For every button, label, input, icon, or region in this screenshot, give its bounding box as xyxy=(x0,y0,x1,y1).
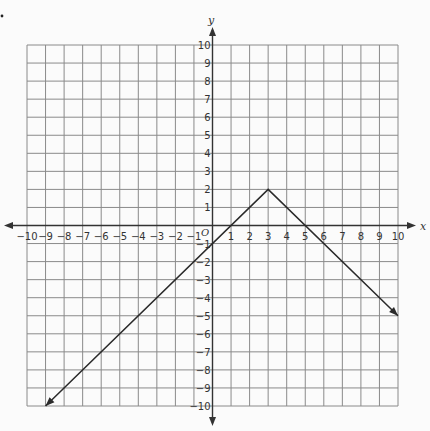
x-tick-label: 10 xyxy=(392,231,405,242)
y-tick-label: −5 xyxy=(196,311,211,322)
x-tick-label: −7 xyxy=(75,231,90,242)
y-axis-label: y xyxy=(207,14,215,27)
x-tick-label: −2 xyxy=(168,231,183,242)
y-tick-label: −10 xyxy=(189,401,210,412)
x-tick-label: 1 xyxy=(228,231,234,242)
y-tick-label: 10 xyxy=(198,40,211,51)
y-tick-label: −3 xyxy=(196,275,211,286)
x-tick-label: −6 xyxy=(94,231,109,242)
stray-dot xyxy=(1,15,4,18)
x-tick-label: −10 xyxy=(16,231,37,242)
y-tick-label: −7 xyxy=(196,347,211,358)
x-tick-label: 4 xyxy=(284,231,290,242)
y-tick-label: 1 xyxy=(204,202,210,213)
y-tick-label: 2 xyxy=(204,184,210,195)
y-tick-label: 7 xyxy=(204,94,210,105)
coordinate-plane: −10−9−8−7−6−5−4−3−2−11234567891010987654… xyxy=(0,0,430,431)
x-tick-label: −5 xyxy=(112,231,127,242)
x-tick-label: 5 xyxy=(302,231,308,242)
x-tick-label: −4 xyxy=(131,231,146,242)
y-tick-label: 6 xyxy=(204,112,210,123)
x-tick-label: 6 xyxy=(321,231,327,242)
y-tick-label: −4 xyxy=(196,293,211,304)
x-tick-label: 9 xyxy=(376,231,382,242)
origin-label: O xyxy=(201,227,209,238)
y-tick-label: 8 xyxy=(204,76,210,87)
x-axis-label: x xyxy=(420,220,427,233)
x-tick-label: 3 xyxy=(265,231,271,242)
y-tick-label: 4 xyxy=(204,148,210,159)
y-tick-label: 9 xyxy=(204,58,210,69)
x-tick-label: −9 xyxy=(38,231,53,242)
y-tick-label: −6 xyxy=(196,329,211,340)
x-tick-label: −3 xyxy=(149,231,164,242)
x-tick-label: −8 xyxy=(57,231,72,242)
x-tick-label: 2 xyxy=(246,231,252,242)
y-tick-label: 3 xyxy=(204,166,210,177)
x-tick-label: 8 xyxy=(358,231,364,242)
y-tick-label: −8 xyxy=(196,365,211,376)
y-tick-label: −9 xyxy=(196,383,211,394)
y-tick-label: 5 xyxy=(204,130,210,141)
x-tick-label: 7 xyxy=(339,231,345,242)
